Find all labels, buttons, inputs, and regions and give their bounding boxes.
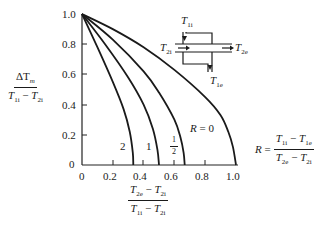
hx-label-t1e: T1e <box>210 74 223 89</box>
curves <box>82 14 236 165</box>
y-ticks <box>82 44 87 135</box>
y-axis-label: ΔTm T1i − T2i <box>6 70 45 105</box>
curve-label-one: 1 <box>146 140 152 152</box>
x-axis-label: T2e − T2i T1i − T2i <box>128 183 168 218</box>
y-tick-label: 0.8 <box>62 38 76 50</box>
curve-label-two: 2 <box>120 140 126 152</box>
x-tick-label: 1.0 <box>226 170 240 182</box>
r-definition: R = T1i − T1e T2e − T2i <box>255 132 314 167</box>
curve-label-r0: R = 0 <box>190 122 214 134</box>
x-tick-label: 0.8 <box>195 170 209 182</box>
y-tick-label: 0.4 <box>62 99 76 111</box>
y-tick-label: 0 <box>69 158 75 170</box>
hx-label-t2e: T2e <box>235 41 248 56</box>
curve-label-half: 12 <box>170 135 178 157</box>
x-tick-label: 0.4 <box>133 170 147 182</box>
x-tick-label: 0.6 <box>164 170 178 182</box>
x-tick-label: 0 <box>79 170 85 182</box>
y-tick-label: 0.2 <box>62 129 76 141</box>
y-tick-label: 0.6 <box>62 68 76 80</box>
x-tick-label: 0.2 <box>103 170 117 182</box>
y-tick-label: 1.0 <box>62 8 76 20</box>
curve-r-0 <box>82 14 236 165</box>
hx-label-t1i: T1i <box>181 14 193 29</box>
hx-label-t2i: T2i <box>160 41 172 56</box>
